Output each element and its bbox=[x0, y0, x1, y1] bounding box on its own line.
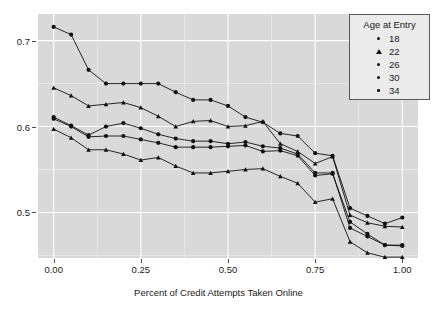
circle-marker-icon bbox=[372, 71, 385, 84]
legend-item-label: 26 bbox=[389, 59, 400, 70]
data-point bbox=[69, 124, 73, 128]
legend-item-30[interactable]: 30 bbox=[350, 71, 429, 84]
data-point bbox=[296, 154, 300, 158]
x-axis-title: Percent of Credit Attempts Taken Online bbox=[0, 287, 437, 298]
data-point bbox=[365, 232, 369, 236]
data-point bbox=[365, 214, 369, 218]
legend-item-26[interactable]: 26 bbox=[350, 58, 429, 71]
y-tick-mark bbox=[32, 127, 36, 128]
x-tick-mark bbox=[402, 259, 403, 263]
data-point bbox=[243, 115, 247, 119]
chart-container: 0.50.60.7 Percent of Credit Attempts Tak… bbox=[0, 0, 437, 320]
legend-item-label: 18 bbox=[389, 33, 400, 44]
data-point bbox=[121, 81, 125, 85]
y-tick-mark bbox=[32, 212, 36, 213]
data-point bbox=[400, 244, 404, 248]
legend-item-22[interactable]: 22 bbox=[350, 45, 429, 58]
x-tick-mark bbox=[315, 259, 316, 263]
circle-marker-icon bbox=[372, 84, 385, 97]
legend-item-label: 34 bbox=[389, 85, 400, 96]
data-point bbox=[261, 149, 265, 153]
x-tick-mark bbox=[228, 259, 229, 263]
data-point bbox=[139, 137, 143, 141]
data-point bbox=[278, 131, 282, 135]
x-tick-label: 0.75 bbox=[306, 264, 325, 275]
circle-marker-icon bbox=[372, 58, 385, 71]
data-point bbox=[400, 216, 404, 220]
legend-title: Age at Entry bbox=[350, 19, 429, 30]
data-point bbox=[191, 139, 195, 143]
data-point bbox=[156, 81, 160, 85]
x-tick-label: 0.00 bbox=[44, 264, 63, 275]
data-point bbox=[174, 90, 178, 94]
data-point bbox=[69, 33, 73, 37]
data-point bbox=[139, 126, 143, 130]
y-tick-label: 0.6 bbox=[17, 121, 30, 132]
data-point bbox=[296, 134, 300, 138]
data-point bbox=[156, 132, 160, 136]
x-tick-label: 0.25 bbox=[132, 264, 151, 275]
data-point bbox=[261, 144, 265, 148]
data-point bbox=[139, 81, 143, 85]
x-tick-label: 0.50 bbox=[219, 264, 238, 275]
data-point bbox=[191, 145, 195, 149]
x-tick-label: 1.00 bbox=[393, 264, 412, 275]
data-point bbox=[191, 98, 195, 102]
y-axis-tick-labels: 0.50.60.7 bbox=[0, 0, 30, 320]
data-point bbox=[52, 117, 56, 121]
data-point bbox=[348, 220, 352, 224]
data-point bbox=[243, 143, 247, 147]
data-point bbox=[348, 226, 352, 230]
data-point bbox=[121, 121, 125, 125]
data-point bbox=[121, 134, 125, 138]
data-point bbox=[174, 145, 178, 149]
data-point bbox=[383, 243, 387, 247]
data-point bbox=[208, 98, 212, 102]
triangle-marker-icon bbox=[372, 45, 385, 58]
legend: Age at Entry 1822263034 bbox=[349, 14, 430, 100]
legend-item-label: 22 bbox=[389, 46, 400, 57]
data-point bbox=[278, 149, 282, 153]
legend-entries: 1822263034 bbox=[350, 32, 429, 97]
data-point bbox=[52, 25, 56, 29]
data-point bbox=[208, 145, 212, 149]
data-point bbox=[313, 173, 317, 177]
data-point bbox=[104, 124, 108, 128]
data-point bbox=[226, 104, 230, 108]
data-point bbox=[226, 144, 230, 148]
legend-item-label: 30 bbox=[389, 72, 400, 83]
data-point bbox=[156, 141, 160, 145]
y-tick-label: 0.5 bbox=[17, 207, 30, 218]
x-tick-mark bbox=[54, 259, 55, 263]
data-point bbox=[174, 136, 178, 140]
circle-marker-icon bbox=[372, 32, 385, 45]
y-tick-label: 0.7 bbox=[17, 35, 30, 46]
legend-item-18[interactable]: 18 bbox=[350, 32, 429, 45]
y-tick-mark bbox=[32, 41, 36, 42]
legend-item-34[interactable]: 34 bbox=[350, 84, 429, 97]
data-point bbox=[86, 68, 90, 72]
data-point bbox=[86, 135, 90, 139]
x-tick-mark bbox=[141, 259, 142, 263]
data-point bbox=[104, 134, 108, 138]
data-point bbox=[208, 139, 212, 143]
data-point bbox=[330, 172, 334, 176]
data-point bbox=[104, 81, 108, 85]
data-point bbox=[313, 151, 317, 155]
